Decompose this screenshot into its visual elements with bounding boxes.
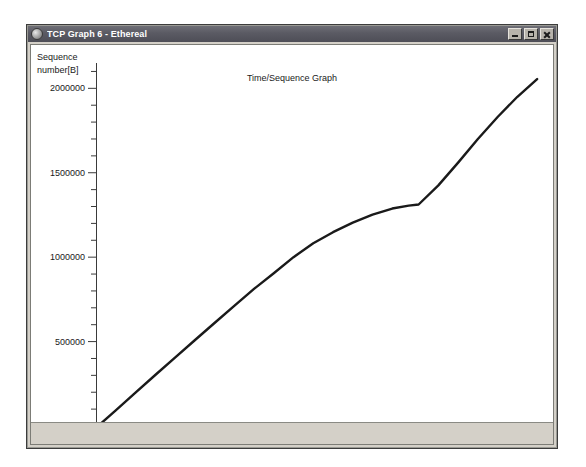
maximize-button[interactable]: [524, 28, 538, 40]
minimize-button[interactable]: [508, 28, 522, 40]
window-controls: [508, 28, 554, 40]
time-sequence-plot: 0.51.01.52.02.53.03.54.04.55.05.56.06.55…: [31, 45, 553, 422]
svg-text:1000000: 1000000: [50, 252, 85, 262]
svg-text:500000: 500000: [55, 337, 85, 347]
status-bar: [31, 422, 553, 444]
window-titlebar[interactable]: TCP Graph 6 - Ethereal: [28, 26, 556, 42]
chart-canvas[interactable]: Sequence number[B] Time/Sequence Graph 0…: [31, 45, 553, 422]
window-client-area: Sequence number[B] Time/Sequence Graph 0…: [30, 44, 554, 445]
app-globe-icon: [31, 28, 43, 40]
window-title: TCP Graph 6 - Ethereal: [47, 29, 508, 39]
svg-text:2000000: 2000000: [50, 83, 85, 93]
screen-root: TCP Graph 6 - Ethereal Sequence number[B…: [0, 0, 586, 467]
close-button[interactable]: [540, 28, 554, 40]
tcp-graph-window: TCP Graph 6 - Ethereal Sequence number[B…: [26, 24, 558, 449]
svg-text:1500000: 1500000: [50, 168, 85, 178]
